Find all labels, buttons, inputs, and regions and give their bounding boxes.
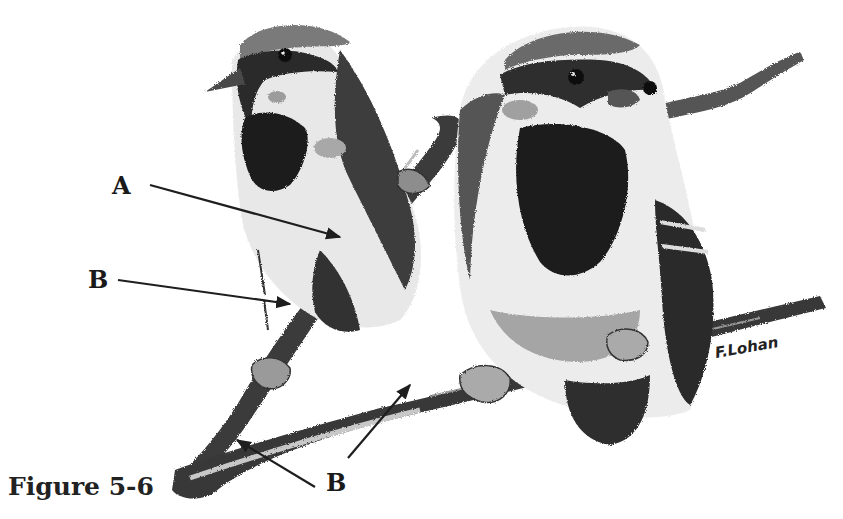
right-sparrow xyxy=(454,27,713,445)
left-sparrow xyxy=(205,25,430,389)
left-sparrow-eye xyxy=(278,48,292,62)
right-sparrow-eye xyxy=(568,69,584,85)
figure-caption: Figure 5-6 xyxy=(8,472,154,501)
figure-illustration: A B B F.Lohan Figure 5-6 xyxy=(0,0,843,519)
label-b1: B xyxy=(88,265,108,294)
artist-signature: F.Lohan xyxy=(714,333,780,362)
label-b3: B xyxy=(326,468,346,497)
label-a: A xyxy=(111,171,131,200)
